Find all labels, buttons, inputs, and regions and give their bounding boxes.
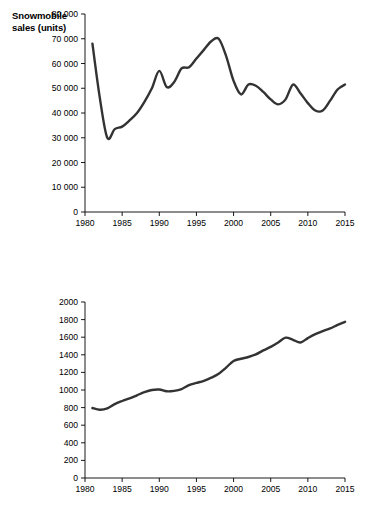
- x-tick-label: 2005: [261, 218, 280, 228]
- y-tick-label: 2000: [59, 297, 78, 307]
- real-gdp-figure: Real GDP (billions of 2007 dollars) 0200…: [0, 258, 372, 516]
- y-tick-label: 30 000: [52, 133, 79, 143]
- y-tick-label: 0: [73, 473, 78, 483]
- y-tick-label: 70 000: [52, 34, 79, 44]
- y-tick-label: 1200: [59, 367, 78, 377]
- x-tick-label: 2010: [298, 218, 317, 228]
- x-tick-label: 1980: [75, 484, 94, 494]
- real-gdp-plot: 0200400600800100012001400160018002000 19…: [0, 258, 372, 516]
- y-tick-label: 80 000: [52, 9, 79, 19]
- real-gdp-x-axis: 19801985199019952000200520102015: [75, 478, 354, 494]
- y-tick-label: 1400: [59, 350, 78, 360]
- snowmobile-series-line: [92, 38, 345, 139]
- y-tick-label: 60 000: [52, 59, 79, 69]
- y-tick-label: 1800: [59, 315, 78, 325]
- x-tick-label: 1995: [187, 218, 206, 228]
- y-tick-label: 10 000: [52, 182, 79, 192]
- x-tick-label: 1985: [113, 484, 132, 494]
- y-tick-label: 50 000: [52, 83, 79, 93]
- x-tick-label: 1990: [150, 484, 169, 494]
- x-tick-label: 2005: [261, 484, 280, 494]
- x-tick-label: 1985: [113, 218, 132, 228]
- y-tick-label: 200: [64, 455, 79, 465]
- y-tick-label: 0: [73, 207, 78, 217]
- x-tick-label: 2000: [224, 218, 243, 228]
- x-tick-label: 1995: [187, 484, 206, 494]
- snowmobile-x-axis: 19801985199019952000200520102015: [75, 212, 354, 228]
- y-tick-label: 600: [64, 420, 79, 430]
- x-tick-label: 2000: [224, 484, 243, 494]
- y-tick-label: 20 000: [52, 158, 79, 168]
- snowmobile-sales-figure: Snowmobile sales (units) 010 00020 00030…: [0, 0, 372, 258]
- snowmobile-plot: 010 00020 00030 00040 00050 00060 00070 …: [0, 0, 372, 258]
- x-tick-label: 1980: [75, 218, 94, 228]
- real-gdp-series-line: [92, 322, 345, 410]
- x-tick-label: 1990: [150, 218, 169, 228]
- y-tick-label: 400: [64, 438, 79, 448]
- x-tick-label: 2015: [335, 218, 354, 228]
- x-tick-label: 2015: [335, 484, 354, 494]
- y-tick-label: 1600: [59, 332, 78, 342]
- y-tick-label: 40 000: [52, 108, 79, 118]
- y-tick-label: 800: [64, 403, 79, 413]
- snowmobile-y-axis: 010 00020 00030 00040 00050 00060 00070 …: [52, 9, 85, 217]
- y-tick-label: 1000: [59, 385, 78, 395]
- x-tick-label: 2010: [298, 484, 317, 494]
- real-gdp-y-axis: 0200400600800100012001400160018002000: [59, 297, 85, 483]
